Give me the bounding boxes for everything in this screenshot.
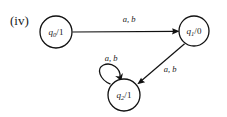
state-diagram: (iv) a, b a, b a, b q0/1 <box>0 0 227 117</box>
edge-label-q1-q2: a, b <box>164 64 177 74</box>
state-node-q0[interactable]: q0/1 <box>40 16 72 48</box>
state-label-q1: q1/0 <box>187 26 202 37</box>
edge-line-q0-q1 <box>73 31 176 32</box>
edge-label-q0-q1: a, b <box>123 14 136 24</box>
edge-line-q1-q2 <box>141 44 185 82</box>
figure-container: (iv) a, b a, b a, b q0/1 <box>0 0 227 117</box>
state-label-q0: q0/1 <box>49 27 64 38</box>
state-output-q1: 0 <box>197 26 202 36</box>
transition-q1-q2: a, b <box>137 44 184 85</box>
transition-q0-q1: a, b <box>73 14 180 34</box>
state-output-q0: 1 <box>59 27 64 37</box>
state-output-q2: 1 <box>127 90 132 100</box>
edge-label-q2-self: a, b <box>105 53 118 63</box>
figure-label: (iv) <box>10 13 29 28</box>
state-label-q2: q2/1 <box>117 90 132 101</box>
state-node-q2[interactable]: q2/1 <box>108 79 140 111</box>
state-node-q1[interactable]: q1/0 <box>179 16 209 46</box>
